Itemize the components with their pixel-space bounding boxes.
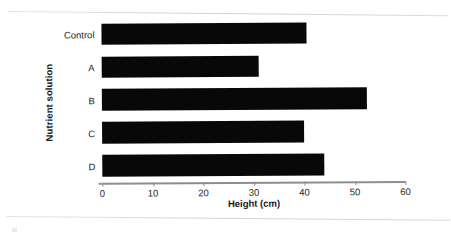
x-axis-tick-mark (304, 182, 305, 186)
x-axis-tick-label: 0 (100, 188, 105, 199)
x-axis-tick-mark (254, 182, 255, 186)
x-axis-title: Height (cm) (102, 197, 405, 210)
bar-d (102, 153, 324, 176)
bar-chart-figure: Nutrient solution Control A B C D 010203… (0, 0, 451, 234)
y-axis-title: Nutrient solution (43, 33, 55, 173)
x-axis-tick-mark (355, 181, 356, 185)
bar-row: Control (101, 16, 404, 51)
bar-row: B (102, 82, 405, 117)
bar-row: D (102, 148, 405, 183)
x-axis-tick-label: 50 (350, 186, 361, 197)
bar-category-label: A (88, 62, 94, 73)
bar-control (101, 23, 306, 45)
plot-area: Control A B C D (101, 16, 405, 183)
x-axis-tick-label: 20 (198, 187, 209, 198)
x-axis-tick-label: 40 (299, 186, 310, 197)
bar-c (102, 121, 304, 144)
x-axis-tick-mark (405, 181, 406, 185)
x-axis-tick-label: 30 (249, 187, 260, 198)
x-axis-tick-label: 10 (148, 187, 159, 198)
bar-category-label: B (89, 95, 95, 106)
x-axis-tick-label: 60 (400, 186, 411, 197)
x-axis-tick-mark (153, 182, 154, 186)
bar-category-label: Control (64, 29, 95, 40)
bar-b (102, 87, 367, 111)
bar-category-label: C (88, 128, 95, 139)
x-axis-tick-mark (102, 183, 103, 187)
bar-a (102, 56, 259, 78)
bar-row: C (102, 115, 405, 150)
bar-category-label: D (88, 161, 95, 172)
x-axis-tick-mark (203, 182, 204, 186)
bar-row: A (102, 49, 405, 84)
